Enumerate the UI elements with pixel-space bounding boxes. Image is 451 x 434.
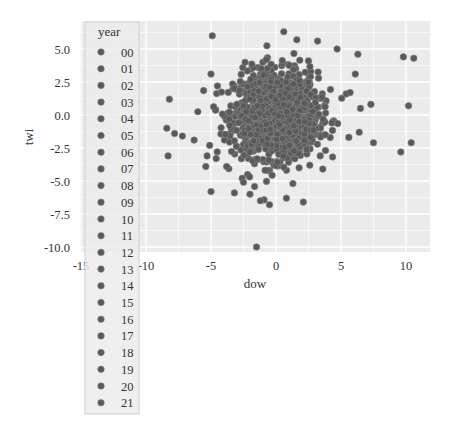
data-point xyxy=(370,139,377,146)
data-point xyxy=(368,101,375,108)
legend-label: 01 xyxy=(121,62,134,76)
legend-marker-icon xyxy=(98,149,105,156)
legend-label: 11 xyxy=(121,229,133,243)
data-point xyxy=(244,68,251,75)
data-point xyxy=(256,80,263,87)
data-point xyxy=(334,46,341,53)
data-point xyxy=(307,134,314,141)
legend-label: 05 xyxy=(121,129,134,143)
data-point xyxy=(257,198,264,205)
data-point xyxy=(208,71,215,78)
data-point xyxy=(252,114,259,121)
data-point xyxy=(408,139,415,146)
data-point xyxy=(266,202,273,209)
data-point xyxy=(398,149,405,156)
data-point xyxy=(286,94,293,101)
legend-marker-icon xyxy=(98,316,105,323)
data-point xyxy=(218,89,225,96)
y-tick-label: -10.0 xyxy=(44,241,70,255)
data-point xyxy=(164,125,171,132)
legend-marker-icon xyxy=(98,349,105,356)
data-point xyxy=(290,180,297,187)
data-point xyxy=(405,103,412,110)
data-point xyxy=(284,108,291,115)
y-tick-label: -7.5 xyxy=(50,208,70,222)
x-tick-label: 5 xyxy=(338,259,344,273)
data-point xyxy=(315,75,322,82)
data-point xyxy=(250,138,257,145)
data-point xyxy=(322,147,329,154)
data-point xyxy=(243,109,250,116)
data-point xyxy=(307,162,314,169)
legend-title: year xyxy=(98,24,121,39)
data-point xyxy=(258,65,265,72)
data-point xyxy=(329,127,336,134)
legend-label: 12 xyxy=(121,246,134,260)
y-tick-label: -2.5 xyxy=(50,142,70,156)
legend-marker-icon xyxy=(98,216,105,223)
data-point xyxy=(305,58,312,65)
data-point xyxy=(226,116,233,123)
data-point xyxy=(280,101,287,108)
data-point xyxy=(301,137,308,144)
legend: year 00010203040506070809101112131415161… xyxy=(85,22,139,414)
legend-marker-icon xyxy=(98,249,105,256)
data-point xyxy=(286,129,293,136)
legend-label: 00 xyxy=(121,46,134,60)
data-point xyxy=(305,79,312,86)
legend-label: 10 xyxy=(121,213,134,227)
legend-marker-icon xyxy=(98,366,105,373)
legend-marker-icon xyxy=(98,182,105,189)
legend-marker-icon xyxy=(98,232,105,239)
data-point xyxy=(203,163,210,170)
data-point xyxy=(225,89,232,96)
legend-label: 21 xyxy=(121,396,134,410)
data-point xyxy=(248,76,255,83)
data-point xyxy=(246,174,253,181)
data-point xyxy=(276,121,283,128)
data-point xyxy=(320,166,327,173)
x-tick-label: 10 xyxy=(400,259,413,273)
data-point xyxy=(235,120,242,127)
data-point xyxy=(171,130,178,137)
data-point xyxy=(241,152,248,159)
data-point xyxy=(210,103,217,110)
data-point xyxy=(228,148,235,155)
data-point xyxy=(314,38,321,45)
data-point xyxy=(265,157,272,164)
data-point xyxy=(213,155,220,162)
data-point xyxy=(281,164,288,171)
data-point xyxy=(290,67,297,74)
data-point xyxy=(309,108,316,115)
x-tick-label: -10 xyxy=(138,259,155,273)
x-tick-label: -5 xyxy=(206,259,216,273)
data-point xyxy=(329,154,336,161)
data-point xyxy=(283,79,290,86)
data-point xyxy=(264,43,271,50)
data-point xyxy=(290,81,297,88)
legend-marker-icon xyxy=(98,283,105,290)
data-point xyxy=(347,89,354,96)
data-point xyxy=(244,83,251,90)
data-point xyxy=(236,87,243,94)
data-point xyxy=(316,111,323,118)
data-point xyxy=(247,191,254,198)
data-point xyxy=(223,163,230,170)
data-point xyxy=(238,71,245,78)
data-point xyxy=(273,136,280,143)
data-point xyxy=(200,87,207,94)
data-point xyxy=(255,88,262,95)
data-point xyxy=(356,129,363,136)
data-point xyxy=(319,94,326,101)
data-point xyxy=(290,123,297,130)
data-point xyxy=(208,188,215,195)
data-point xyxy=(242,59,249,66)
y-axis-label: twi xyxy=(21,128,36,145)
data-point xyxy=(264,141,271,148)
data-point xyxy=(279,57,286,64)
data-point xyxy=(255,146,262,153)
legend-marker-icon xyxy=(98,399,105,406)
legend-label: 07 xyxy=(121,162,134,176)
data-point xyxy=(249,61,256,68)
data-point xyxy=(254,103,261,110)
